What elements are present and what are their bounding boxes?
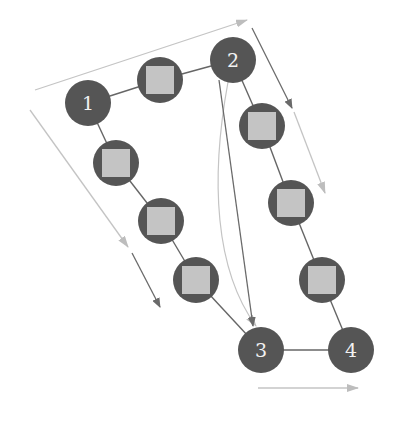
node-2-label: 2 bbox=[227, 49, 239, 71]
node-3[interactable]: 3 bbox=[238, 327, 284, 373]
node-1[interactable]: 1 bbox=[65, 80, 111, 126]
arrow-left-dark bbox=[132, 253, 160, 307]
square-node[interactable] bbox=[268, 180, 314, 226]
node-3-label: 3 bbox=[255, 339, 267, 361]
square-node[interactable] bbox=[173, 257, 219, 303]
arrow-right-light bbox=[294, 112, 325, 193]
node-2[interactable]: 2 bbox=[210, 37, 256, 83]
square-node[interactable] bbox=[138, 198, 184, 244]
graph-diagram: 1 2 3 4 bbox=[0, 0, 402, 421]
square-node[interactable] bbox=[299, 257, 345, 303]
square-nodes bbox=[93, 57, 345, 303]
square-node[interactable] bbox=[137, 57, 183, 103]
arrow-right-dark bbox=[252, 28, 292, 108]
node-4-label: 4 bbox=[345, 339, 357, 361]
square-node[interactable] bbox=[93, 140, 139, 186]
node-1-label: 1 bbox=[82, 92, 94, 114]
square-node[interactable] bbox=[239, 103, 285, 149]
node-4[interactable]: 4 bbox=[328, 327, 374, 373]
